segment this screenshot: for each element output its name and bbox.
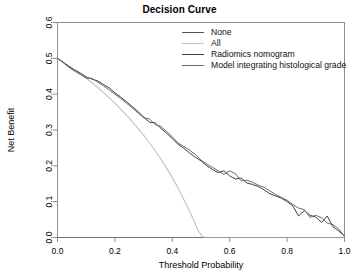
y-tick-label: 0.2 (44, 160, 54, 172)
legend-item-none: None (182, 27, 346, 38)
x-tick-label: 0.2 (109, 246, 121, 256)
legend-swatch-model-histological-grade (182, 65, 204, 66)
x-tick-label: 0.0 (52, 246, 64, 256)
y-tick-label: 0.3 (44, 124, 54, 136)
x-tick-label: 0.6 (224, 246, 236, 256)
chart-legend: None All Radiomics nomogram Model integr… (182, 27, 346, 71)
y-tick-label: 0.1 (44, 195, 54, 207)
decision-curve-figure: Decision Curve 0.00.20.40.60.81.00.00.10… (0, 0, 359, 276)
y-tick-label: 0.5 (44, 52, 54, 64)
x-tick-label: 0.8 (281, 246, 293, 256)
legend-swatch-all (182, 43, 204, 44)
legend-item-radiomics-nomogram: Radiomics nomogram (182, 49, 346, 60)
legend-label-model-histological-grade: Model integrating histological grade (211, 60, 346, 71)
x-tick-label: 0.4 (166, 246, 178, 256)
x-axis-label: Threshold Probability (159, 260, 244, 270)
y-axis-label: Net Benefit (6, 107, 16, 152)
series-line (58, 58, 345, 236)
legend-item-model-histological-grade: Model integrating histological grade (182, 60, 346, 71)
series-line (58, 58, 345, 236)
series-line (58, 58, 345, 237)
y-tick-label: 0.0 (44, 231, 54, 243)
y-tick-label: 0.6 (44, 16, 54, 28)
legend-swatch-none (182, 32, 204, 33)
legend-label-none: None (211, 27, 232, 38)
legend-label-all: All (211, 38, 221, 49)
legend-swatch-radiomics-nomogram (182, 54, 204, 55)
legend-label-radiomics-nomogram: Radiomics nomogram (211, 49, 295, 60)
y-tick-label: 0.4 (44, 88, 54, 100)
x-tick-label: 1.0 (339, 246, 351, 256)
legend-item-all: All (182, 38, 346, 49)
